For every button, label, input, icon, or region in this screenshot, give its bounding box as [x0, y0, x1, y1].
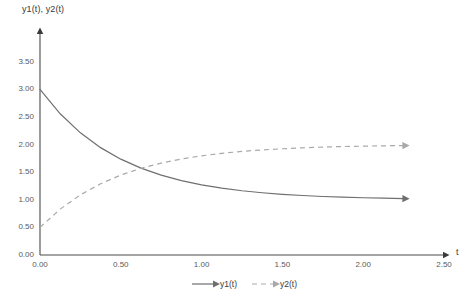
plot-area	[0, 0, 471, 297]
y-tick-label: 3.00	[6, 84, 34, 93]
y-tick-label: 1.00	[6, 195, 34, 204]
series-group	[40, 89, 404, 227]
x-tick-label: 0.00	[20, 260, 60, 269]
y-axis-title: y1(t), y2(t)	[22, 4, 64, 14]
x-tick-label: 1.00	[182, 260, 222, 269]
y-tick-label: 0.00	[6, 250, 34, 259]
x-axis-title: t	[456, 247, 459, 257]
y-tick-label: 0.50	[6, 222, 34, 231]
series-y1-line	[40, 89, 404, 198]
legend-label-y1t: y1(t)	[220, 279, 237, 289]
y-tick-label: 2.00	[6, 140, 34, 149]
y-tick-label: 1.50	[6, 167, 34, 176]
axes-group	[40, 33, 444, 255]
chart-container: y1(t), y2(t) t 0.000.501.001.502.002.503…	[0, 0, 471, 297]
x-tick-label: 2.00	[343, 260, 383, 269]
x-tick-label: 1.50	[262, 260, 302, 269]
series-y2-line	[40, 146, 404, 228]
legend-label-y2t: y2(t)	[280, 279, 297, 289]
y-tick-label: 3.50	[6, 57, 34, 66]
x-tick-label: 0.50	[101, 260, 141, 269]
y-tick-label: 2.50	[6, 112, 34, 121]
x-tick-label: 2.50	[424, 260, 464, 269]
